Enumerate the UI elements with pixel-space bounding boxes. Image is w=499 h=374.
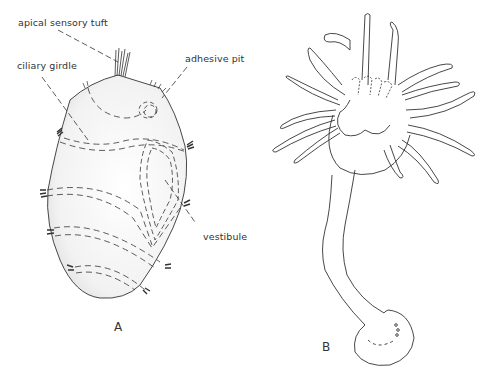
panel-letter-b: B: [322, 340, 330, 354]
label-apical-sensory-tuft: apical sensory tuft: [18, 17, 108, 28]
apical-tuft: [115, 48, 130, 77]
label-ciliary-girdle: ciliary girdle: [17, 60, 77, 71]
label-adhesive-pit: adhesive pit: [185, 53, 244, 64]
figure-illustration: [0, 0, 499, 374]
panel-letter-a: A: [114, 320, 122, 334]
larva-body: [40, 48, 194, 298]
polyp-body: [273, 14, 475, 366]
label-vestibule: vestibule: [203, 231, 247, 242]
